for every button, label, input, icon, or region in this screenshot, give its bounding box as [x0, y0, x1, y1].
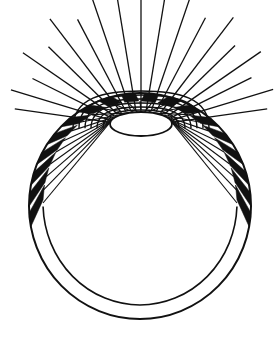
figure-canvas: Parachute canopy line drawing Black-and-…: [0, 0, 278, 340]
central-ellipse-hub: [110, 112, 172, 136]
parachute-canopy-drawing: Parachute canopy line drawing Black-and-…: [0, 0, 278, 340]
